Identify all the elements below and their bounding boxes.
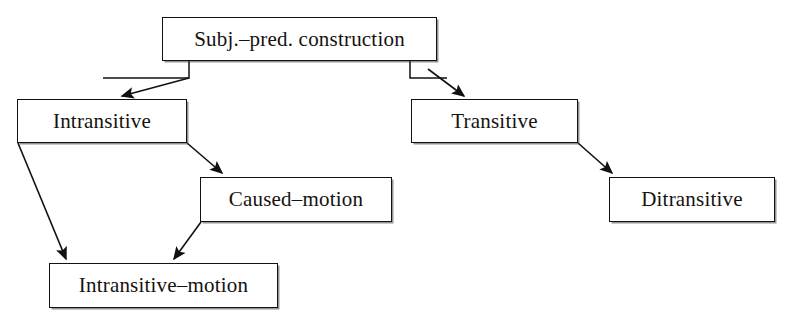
node-caused-motion: Caused–motion xyxy=(200,177,392,222)
construction-hierarchy-diagram: Subj.–pred. construction Intransitive Tr… xyxy=(0,0,790,334)
node-intransitive: Intransitive xyxy=(17,99,187,143)
node-label: Intransitive–motion xyxy=(79,275,248,296)
edge-root-intrans xyxy=(122,78,189,96)
edge-root-trans xyxy=(428,69,464,96)
node-transitive: Transitive xyxy=(411,99,578,143)
node-intransitive-motion: Intransitive–motion xyxy=(49,263,278,308)
edge-intrans-intransm xyxy=(18,143,66,259)
node-label: Ditransitive xyxy=(641,189,743,210)
node-ditransitive: Ditransitive xyxy=(609,177,775,222)
edge-caused-intransm xyxy=(174,222,201,259)
node-subj-pred-construction: Subj.–pred. construction xyxy=(162,17,437,61)
edge-trans-ditrans xyxy=(578,143,612,173)
node-label: Subj.–pred. construction xyxy=(194,29,405,50)
node-label: Caused–motion xyxy=(229,189,363,210)
node-label: Intransitive xyxy=(53,111,151,132)
edge-root-intrans-stem xyxy=(103,61,189,78)
node-label: Transitive xyxy=(451,111,537,132)
edge-root-trans-stem xyxy=(410,61,447,78)
edge-intrans-caused xyxy=(187,143,222,173)
